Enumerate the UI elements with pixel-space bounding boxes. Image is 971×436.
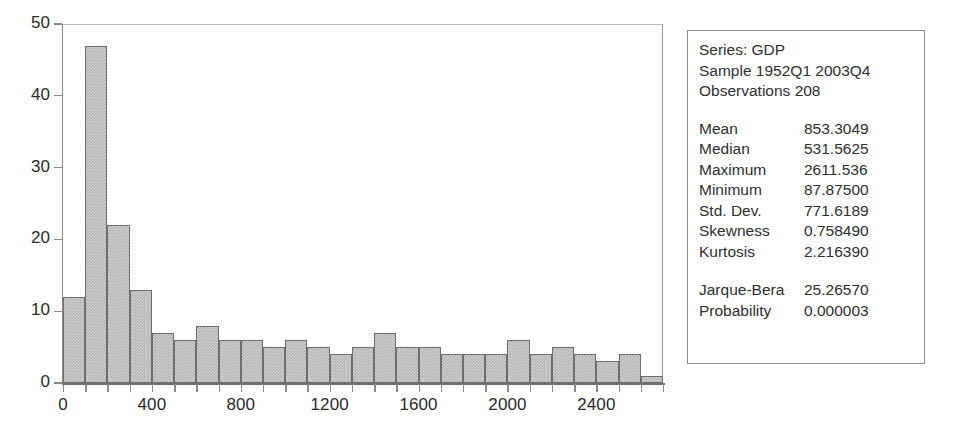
y-axis-tick	[54, 382, 62, 383]
histogram-bar	[619, 354, 641, 383]
statistic-value: 87.87500	[804, 180, 869, 201]
histogram-bar	[152, 333, 174, 383]
histogram-bars	[63, 24, 663, 383]
series-name-line: Series: GDP	[699, 40, 924, 61]
x-axis-tick	[396, 384, 397, 392]
test-statistic-row: Probability0.000003	[699, 301, 924, 322]
statistic-row: Skewness0.758490	[699, 221, 924, 242]
histogram-bar	[263, 347, 285, 383]
spacer	[699, 102, 924, 119]
x-axis-tick	[63, 384, 64, 392]
x-axis-tick	[174, 384, 175, 392]
statistic-name: Mean	[699, 119, 804, 140]
statistic-value: 531.5625	[804, 139, 869, 160]
histogram-bar	[130, 290, 152, 383]
histogram-summary-figure: 01020304050 04008001200160020002400 Seri…	[0, 0, 971, 436]
statistic-name: Minimum	[699, 180, 804, 201]
x-axis-tick	[330, 384, 331, 392]
histogram-bar	[463, 354, 485, 383]
statistic-name: Probability	[699, 301, 804, 322]
statistic-value: 771.6189	[804, 201, 869, 222]
sample-range-line: Sample 1952Q1 2003Q4	[699, 61, 924, 82]
histogram-bar	[374, 333, 396, 383]
x-axis-tick	[574, 384, 575, 392]
y-axis-tick-label: 20	[0, 228, 50, 248]
x-axis-tick	[196, 384, 197, 392]
x-axis-tick	[219, 384, 220, 392]
y-axis-tick-label: 0	[0, 372, 50, 392]
statistic-row: Median531.5625	[699, 139, 924, 160]
statistic-row: Minimum87.87500	[699, 180, 924, 201]
histogram-bar	[174, 340, 196, 383]
x-axis-tick	[419, 384, 420, 392]
descriptive-statistics-list: Mean853.3049Median531.5625Maximum2611.53…	[699, 119, 924, 263]
histogram-bar	[530, 354, 552, 383]
statistic-value: 0.000003	[804, 301, 869, 322]
histogram-bar	[441, 354, 463, 383]
x-axis-tick	[485, 384, 486, 392]
x-axis-tick	[107, 384, 108, 392]
observations-line: Observations 208	[699, 81, 924, 102]
statistic-name: Maximum	[699, 160, 804, 181]
y-axis-tick	[54, 23, 62, 24]
x-axis-tick	[530, 384, 531, 392]
x-axis-tick	[130, 384, 131, 392]
histogram-bar	[419, 347, 441, 383]
x-axis-tick	[641, 384, 642, 392]
histogram-bar	[85, 46, 107, 383]
statistic-value: 2611.536	[804, 160, 868, 181]
statistic-value: 2.216390	[804, 242, 869, 263]
statistic-row: Std. Dev.771.6189	[699, 201, 924, 222]
x-axis-tick	[663, 384, 664, 392]
statistic-row: Mean853.3049	[699, 119, 924, 140]
x-axis-tick-label: 0	[33, 395, 93, 415]
x-axis-tick	[596, 384, 597, 392]
y-axis-tick	[54, 167, 62, 168]
x-axis-tick	[307, 384, 308, 392]
y-axis-tick	[54, 311, 62, 312]
x-axis-tick-label: 2400	[566, 395, 626, 415]
histogram-bar	[396, 347, 418, 383]
statistic-value: 25.26570	[804, 280, 869, 301]
x-axis-tick-label: 1200	[300, 395, 360, 415]
statistic-value: 0.758490	[804, 221, 869, 242]
x-axis-tick-label: 800	[211, 395, 271, 415]
statistic-row: Maximum2611.536	[699, 160, 924, 181]
statistic-name: Std. Dev.	[699, 201, 804, 222]
histogram-bar	[196, 326, 218, 383]
statistics-box: Series: GDP Sample 1952Q1 2003Q4 Observa…	[687, 30, 925, 364]
histogram-bar	[219, 340, 241, 383]
x-axis-tick	[152, 384, 153, 392]
y-axis-tick-label: 40	[0, 85, 50, 105]
x-axis-tick	[619, 384, 620, 392]
statistic-name: Jarque-Bera	[699, 280, 804, 301]
x-axis-tick	[241, 384, 242, 392]
statistic-name: Kurtosis	[699, 242, 804, 263]
x-axis-tick	[374, 384, 375, 392]
y-axis-tick-label: 30	[0, 157, 50, 177]
x-axis-tick-label: 2000	[477, 395, 537, 415]
histogram-bar	[241, 340, 263, 383]
histogram-bar	[352, 347, 374, 383]
spacer	[699, 262, 924, 280]
histogram-bar	[485, 354, 507, 383]
histogram-bar	[285, 340, 307, 383]
normality-test-list: Jarque-Bera25.26570Probability0.000003	[699, 280, 924, 321]
y-axis-tick-label: 10	[0, 300, 50, 320]
test-statistic-row: Jarque-Bera25.26570	[699, 280, 924, 301]
x-axis-tick	[441, 384, 442, 392]
x-axis-tick	[352, 384, 353, 392]
x-axis-tick	[552, 384, 553, 392]
histogram-panel: 01020304050 04008001200160020002400	[0, 0, 672, 436]
histogram-bar	[63, 297, 85, 383]
histogram-bar	[307, 347, 329, 383]
histogram-bar	[107, 225, 129, 383]
statistic-name: Median	[699, 139, 804, 160]
y-axis-tick	[54, 239, 62, 240]
histogram-bar	[330, 354, 352, 383]
x-axis-tick-label: 1600	[389, 395, 449, 415]
histogram-bar	[574, 354, 596, 383]
x-axis-tick	[285, 384, 286, 392]
histogram-bar	[552, 347, 574, 383]
x-axis-tick-label: 400	[122, 395, 182, 415]
